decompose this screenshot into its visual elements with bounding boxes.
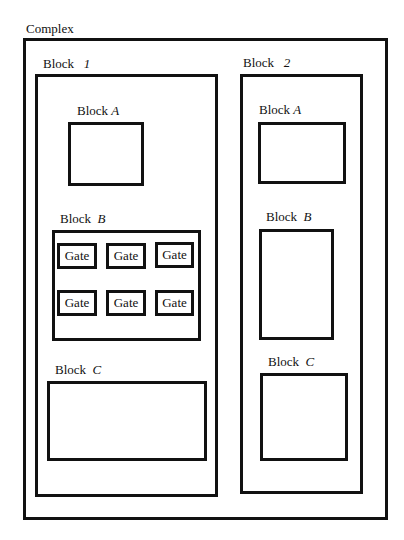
block2-label-prefix: Block [243,55,274,70]
block1-c-box [47,381,207,461]
gate-label: Gate [114,248,139,264]
block2-c-label: Block C [268,355,314,369]
block2-b-label: Block B [266,210,312,224]
gate-label: Gate [65,295,90,311]
block1-a-label-id: A [111,103,119,118]
block1-b-label-id: B [98,211,106,226]
gate-label: Gate [114,295,139,311]
gate-2: Gate [106,243,146,269]
block2-a-label-id: A [293,102,301,117]
block2-a-label: Block A [259,103,301,117]
block1-a-label-prefix: Block [77,103,108,118]
gate-3: Gate [155,242,194,268]
block1-b-label: Block B [60,212,106,226]
block2-b-label-prefix: Block [266,209,297,224]
block1-c-label-prefix: Block [55,362,86,377]
block2-label: Block 2 [243,56,290,70]
block2-a-box [258,122,346,184]
block2-label-id: 2 [284,55,291,70]
gate-label: Gate [162,295,187,311]
block2-c-label-id: C [306,354,315,369]
block2-b-label-id: B [304,209,312,224]
block2-a-label-prefix: Block [259,102,290,117]
block1-c-label-id: C [93,362,102,377]
gate-label: Gate [65,248,90,264]
block1-label: Block 1 [43,57,90,71]
gate-4: Gate [57,290,97,316]
block2-c-box [260,373,348,461]
block1-label-prefix: Block [43,56,74,71]
block1-a-label: Block A [77,104,119,118]
block2-b-box [259,229,334,340]
block1-c-label: Block C [55,363,101,377]
block1-a-box [68,122,144,186]
gate-label: Gate [162,247,187,263]
complex-label: Complex [26,22,74,36]
block2-c-label-prefix: Block [268,354,299,369]
block1-label-id: 1 [84,56,91,71]
gate-5: Gate [106,290,146,316]
complex-title: Complex [26,21,74,36]
gate-1: Gate [57,243,97,269]
gate-6: Gate [155,290,194,316]
block1-b-label-prefix: Block [60,211,91,226]
